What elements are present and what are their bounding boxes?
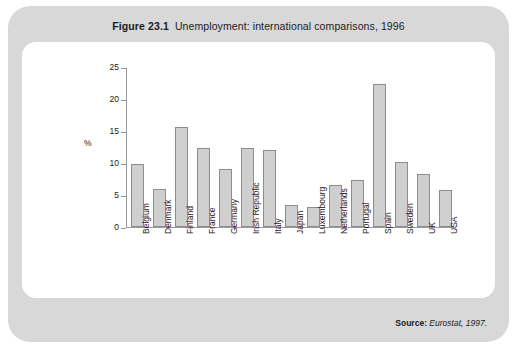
- source-note: Source: Eurostat, 1997.: [395, 318, 487, 328]
- figure-frame: Figure 23.1 Unemployment: international …: [8, 6, 509, 342]
- x-label-germany: Germany: [229, 199, 239, 234]
- source-label: Source:: [395, 318, 427, 328]
- x-label-portugal: Portugal: [361, 202, 371, 234]
- figure-title: Figure 23.1 Unemployment: international …: [8, 20, 509, 32]
- figure-caption: Unemployment: international comparisons,…: [175, 20, 405, 32]
- x-label-denmark: Denmark: [163, 200, 173, 234]
- y-tick-label: 0: [114, 222, 119, 232]
- bar-slot: [170, 67, 192, 227]
- y-tick-label: 5: [114, 190, 119, 200]
- y-tick-mark: [121, 228, 126, 229]
- x-label-finland: Finland: [185, 206, 195, 234]
- bar-slot: [280, 67, 302, 227]
- x-label-netherlands: Netherlands: [339, 188, 349, 234]
- bar-uk[interactable]: [417, 174, 430, 227]
- y-axis-title: %: [84, 138, 92, 148]
- y-tick-label: 25: [110, 62, 119, 72]
- x-label-france: France: [207, 208, 217, 234]
- source-value: Eurostat, 1997.: [429, 318, 487, 328]
- bar-slot: [368, 67, 390, 227]
- bar-slot: [258, 67, 280, 227]
- x-label-uk: UK: [427, 222, 437, 234]
- x-label-sweden: Sweden: [405, 203, 415, 234]
- bar-slot: [192, 67, 214, 227]
- figure-number: Figure 23.1: [112, 20, 169, 32]
- plot-area: 0510152025 BelgiumDenmarkFinlandFranceGe…: [126, 68, 456, 228]
- x-label-italy: Italy: [273, 218, 283, 234]
- x-label-irish-republic: Irish Republic: [251, 183, 261, 235]
- chart-plate: % 0510152025 BelgiumDenmarkFinlandFrance…: [22, 42, 495, 298]
- bar-slot: [434, 67, 456, 227]
- x-label-luxembourg: Luxembourg: [317, 187, 327, 234]
- bar-italy[interactable]: [263, 150, 276, 227]
- y-tick-label: 10: [110, 158, 119, 168]
- x-label-usa: USA: [449, 217, 459, 234]
- y-tick-label: 15: [110, 126, 119, 136]
- x-label-spain: Spain: [383, 212, 393, 234]
- x-label-belgium: Belgium: [141, 203, 151, 234]
- y-tick-label: 20: [110, 94, 119, 104]
- bar-spain[interactable]: [373, 84, 386, 227]
- x-label-japan: Japan: [295, 211, 305, 234]
- bar-slot: [412, 67, 434, 227]
